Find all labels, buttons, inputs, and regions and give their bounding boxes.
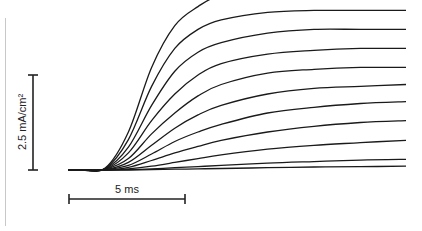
horizontal-scale-label: 5 ms [115, 183, 139, 195]
trace-trace-2 [68, 10, 406, 171]
vertical-scale-bar [28, 75, 38, 170]
figure-canvas: 2.5 mA/cm² 5 ms [0, 0, 422, 231]
trace-trace-6 [68, 85, 406, 171]
current-traces [68, 0, 406, 171]
vertical-scale-label: 2.5 mA/cm² [16, 94, 28, 151]
horizontal-scale-bar [69, 194, 185, 204]
trace-trace-8 [68, 121, 406, 171]
trace-trace-1 [68, 0, 406, 171]
